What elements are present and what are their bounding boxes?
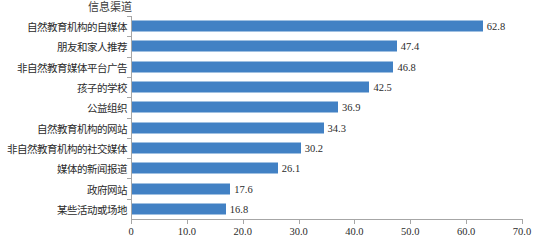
bar — [132, 183, 230, 194]
value-axis-tick — [299, 220, 300, 224]
bar-row: 政府网站17.6 — [131, 178, 522, 198]
category-axis-tick — [127, 158, 131, 159]
bar-value-label: 34.3 — [328, 122, 346, 133]
bar — [132, 41, 397, 52]
bar-row: 朋友和家人推荐47.4 — [131, 36, 522, 56]
value-axis-tick — [466, 220, 467, 224]
value-axis-tick — [522, 220, 523, 224]
bar-value-label: 62.8 — [487, 21, 505, 32]
category-label: 某些活动或场地 — [57, 201, 127, 216]
category-axis-tick — [127, 57, 131, 58]
category-axis-tick — [127, 36, 131, 37]
bar-row: 孩子的学校42.5 — [131, 77, 522, 97]
category-label: 媒体的新闻报道 — [57, 161, 127, 176]
bar — [132, 122, 324, 133]
category-axis-tick — [127, 77, 131, 78]
category-label: 政府网站 — [87, 181, 127, 196]
category-axis-tick — [127, 16, 131, 17]
value-axis-tick-label: 50.0 — [401, 226, 419, 237]
value-axis-tick-label: 70.0 — [513, 226, 531, 237]
bar-row: 自然教育机构的自媒体62.8 — [131, 16, 522, 36]
category-axis-tick — [127, 118, 131, 119]
category-label: 自然教育机构的网站 — [37, 120, 127, 135]
value-axis-tick — [187, 220, 188, 224]
bar-value-label: 47.4 — [401, 41, 419, 52]
bar-value-label: 46.8 — [397, 61, 415, 72]
value-axis-tick-label: 60.0 — [457, 226, 475, 237]
value-axis-tick — [410, 220, 411, 224]
category-label: 非自然教育媒体平台广告 — [17, 59, 127, 74]
bar-row: 非自然教育媒体平台广告46.8 — [131, 57, 522, 77]
bar-row: 自然教育机构的网站34.3 — [131, 118, 522, 138]
value-axis-tick-label: 20.0 — [234, 226, 252, 237]
bar-row: 公益组织36.9 — [131, 97, 522, 117]
bar-value-label: 36.9 — [342, 102, 360, 113]
bar-value-label: 26.1 — [282, 163, 300, 174]
value-axis-tick — [131, 220, 132, 224]
value-axis-tick-label: 10.0 — [178, 226, 196, 237]
category-label: 孩子的学校 — [77, 80, 127, 95]
bar — [132, 21, 483, 32]
category-axis-tick — [127, 178, 131, 179]
bar-value-label: 17.6 — [234, 183, 252, 194]
bar — [132, 61, 393, 72]
category-axis-tick — [127, 97, 131, 98]
value-axis-tick — [243, 220, 244, 224]
bar-value-label: 16.8 — [230, 203, 248, 214]
value-axis-line — [131, 219, 523, 220]
value-axis-tick-label: 0 — [128, 226, 133, 237]
chart-title: 信息渠道 — [88, 0, 132, 15]
bar-row: 某些活动或场地16.8 — [131, 199, 522, 219]
category-label: 自然教育机构的自媒体 — [27, 19, 127, 34]
category-label: 非自然教育机构的社交媒体 — [7, 140, 127, 155]
bar — [132, 142, 301, 153]
bar — [132, 163, 278, 174]
bar-value-label: 42.5 — [373, 82, 391, 93]
bar — [132, 203, 226, 214]
value-axis-tick-label: 40.0 — [345, 226, 363, 237]
bar — [132, 102, 338, 113]
category-label: 朋友和家人推荐 — [57, 39, 127, 54]
category-axis-tick — [127, 199, 131, 200]
bar-value-label: 30.2 — [305, 142, 323, 153]
category-label: 公益组织 — [87, 100, 127, 115]
plot-area: 自然教育机构的自媒体62.8朋友和家人推荐47.4非自然教育媒体平台广告46.8… — [131, 16, 522, 219]
bar-chart: 信息渠道 自然教育机构的自媒体62.8朋友和家人推荐47.4非自然教育媒体平台广… — [0, 0, 538, 246]
category-axis-tick — [127, 138, 131, 139]
bar-row: 媒体的新闻报道26.1 — [131, 158, 522, 178]
bar-row: 非自然教育机构的社交媒体30.2 — [131, 138, 522, 158]
value-axis-tick — [354, 220, 355, 224]
bar — [132, 82, 369, 93]
value-axis-tick-label: 30.0 — [289, 226, 307, 237]
